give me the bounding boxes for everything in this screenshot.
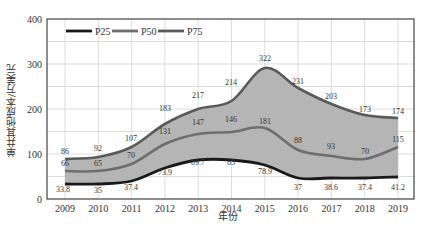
data-label-p50: 93 — [327, 142, 335, 151]
chart-svg: 0100200300400 20092010201120122013201420… — [0, 0, 428, 237]
data-label-p25: 35 — [94, 186, 102, 195]
x-tick-label: 2016 — [288, 203, 308, 214]
data-label-p25: 37.4 — [124, 183, 138, 192]
data-label-p75: 322 — [259, 54, 271, 63]
data-label-p50: 66 — [61, 159, 69, 168]
legend-label-p25: P25 — [95, 26, 111, 37]
data-label-p75: 231 — [292, 77, 304, 86]
data-label-p75: 214 — [225, 78, 237, 87]
y-tick-label: 400 — [27, 14, 42, 25]
data-label-p75: 203 — [325, 92, 337, 101]
data-label-p50: 147 — [192, 118, 204, 127]
legend-label-p50: P50 — [141, 26, 157, 37]
data-label-p25: 38.6 — [324, 183, 338, 192]
data-label-p75: 217 — [192, 91, 204, 100]
y-tick-label: 200 — [27, 104, 42, 115]
data-label-p50: 115 — [392, 135, 404, 144]
data-label-p25: 78.9 — [258, 167, 272, 176]
x-tick-label: 2015 — [255, 203, 275, 214]
data-label-p25: 37.4 — [358, 183, 372, 192]
data-label-p25: 37 — [294, 183, 302, 192]
x-tick-label: 2019 — [388, 203, 408, 214]
data-label-p25: 85 — [227, 158, 235, 167]
data-label-p50: 88 — [294, 136, 302, 145]
y-tick-label: 0 — [37, 194, 42, 205]
y-axis-label: 单井其他成本/万美元 — [4, 40, 20, 180]
data-label-p50: 181 — [259, 117, 271, 126]
chart-container: 0100200300400 20092010201120122013201420… — [0, 0, 428, 237]
data-label-p75: 107 — [125, 134, 137, 143]
data-label-p50: 146 — [225, 115, 237, 124]
data-label-p75: 174 — [392, 107, 404, 116]
y-tick-label: 100 — [27, 149, 42, 160]
x-tick-label: 2011 — [122, 203, 142, 214]
data-label-p75: 183 — [159, 104, 171, 113]
x-axis-label: 年份 — [218, 208, 238, 223]
x-tick-label: 2018 — [355, 203, 375, 214]
x-tick-label: 2013 — [188, 203, 208, 214]
data-label-p50: 131 — [159, 127, 171, 136]
data-label-p50: 70 — [361, 147, 369, 156]
data-label-p75: 86 — [61, 147, 69, 156]
data-label-p75: 173 — [359, 105, 371, 114]
data-label-p25: 33.8 — [56, 185, 70, 194]
x-tick-label: 2009 — [55, 203, 75, 214]
data-label-p25: 73.9 — [158, 168, 172, 177]
x-tick-label: 2012 — [155, 203, 175, 214]
y-tick-label: 300 — [27, 59, 42, 70]
y-axis-ticks: 0100200300400 — [27, 14, 42, 205]
data-label-p50: 70 — [127, 151, 135, 160]
x-tick-label: 2010 — [88, 203, 108, 214]
data-label-p50: 65 — [94, 159, 102, 168]
legend: P25 P50 P75 — [66, 26, 203, 37]
data-label-p25: 89.7 — [191, 158, 205, 167]
x-tick-label: 2017 — [321, 203, 341, 214]
data-label-p25: 41.2 — [391, 183, 405, 192]
legend-label-p75: P75 — [187, 26, 203, 37]
data-label-p75: 92 — [94, 144, 102, 153]
